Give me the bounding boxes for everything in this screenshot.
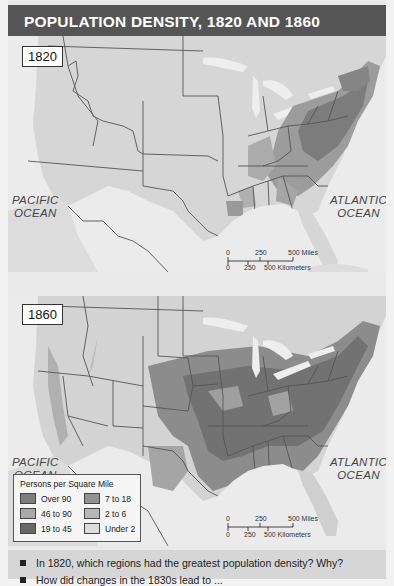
- legend-swatch-icon: [20, 508, 36, 519]
- map-1820: 1820 PACIFIC OCEAN ATLANTIC OCEAN 0 250 …: [8, 36, 386, 272]
- question-text: How did changes in the 1830s lead to ...: [36, 574, 223, 586]
- scale-km-500: 500 Kilometers: [264, 264, 311, 271]
- legend-item-over-90: Over 90: [20, 493, 71, 504]
- question-text: In 1820, which regions had the greatest …: [36, 557, 343, 569]
- atlantic-ocean-label-1820: ATLANTIC OCEAN: [330, 194, 386, 220]
- legend-label: Over 90: [41, 494, 71, 504]
- legend-item-7-to-18: 7 to 18: [84, 493, 131, 504]
- ocean-sub: OCEAN: [12, 207, 59, 220]
- scale-ruler-icon: [227, 523, 297, 531]
- legend-item-under-2: Under 2: [84, 523, 135, 534]
- scale-km-0: 0: [226, 264, 230, 271]
- ocean-name: PACIFIC: [12, 194, 59, 207]
- legend-item-46-to-90: 46 to 90: [20, 508, 72, 519]
- ocean-name: ATLANTIC: [330, 194, 386, 207]
- scale-mile-500: 500 Miles: [288, 515, 318, 522]
- legend-swatch-icon: [84, 523, 100, 534]
- scale-mile-250: 250: [255, 249, 267, 256]
- legend-swatch-icon: [20, 493, 36, 504]
- ocean-name: PACIFIC: [12, 456, 59, 469]
- scale-mile-500: 500 Miles: [288, 249, 318, 256]
- legend-title: Persons per Square Mile: [20, 479, 114, 489]
- question-panel: In 1820, which regions had the greatest …: [8, 550, 386, 579]
- legend-swatch-icon: [84, 493, 100, 504]
- year-label-1860: 1860: [22, 304, 63, 325]
- scale-km-250: 250: [244, 264, 256, 271]
- square-bullet-icon: [20, 560, 26, 566]
- year-label-1820: 1820: [22, 46, 63, 67]
- scale-km-0: 0: [226, 531, 230, 538]
- ocean-sub: OCEAN: [330, 207, 386, 220]
- us-map-1820-graphic: [8, 36, 386, 272]
- pacific-ocean-label-1820: PACIFIC OCEAN: [12, 194, 59, 220]
- figure-title: POPULATION DENSITY, 1820 AND 1860: [24, 13, 320, 31]
- legend-swatch-icon: [84, 508, 100, 519]
- scale-km-500: 500 Kilometers: [264, 531, 311, 538]
- legend-label: 2 to 6: [105, 509, 126, 519]
- scale-km-250: 250: [244, 531, 256, 538]
- scale-mile-250: 250: [255, 515, 267, 522]
- legend-label: 7 to 18: [105, 494, 131, 504]
- scale-mile-0: 0: [226, 515, 230, 522]
- legend-label: Under 2: [105, 524, 135, 534]
- ocean-sub: OCEAN: [330, 469, 386, 482]
- atlantic-ocean-label-1860: ATLANTIC OCEAN: [330, 456, 386, 482]
- legend-label: 19 to 45: [41, 524, 72, 534]
- scale-mile-0: 0: [226, 249, 230, 256]
- ocean-name: ATLANTIC: [330, 456, 386, 469]
- question-item: How did changes in the 1830s lead to ...: [20, 574, 223, 586]
- legend-label: 46 to 90: [41, 509, 72, 519]
- legend-swatch-icon: [20, 523, 36, 534]
- title-bar: POPULATION DENSITY, 1820 AND 1860: [8, 5, 386, 36]
- legend-item-19-to-45: 19 to 45: [20, 523, 72, 534]
- legend: Persons per Square Mile Over 90 46 to 90…: [13, 474, 141, 542]
- square-bullet-icon: [20, 577, 26, 583]
- question-item: In 1820, which regions had the greatest …: [20, 557, 343, 569]
- legend-item-2-to-6: 2 to 6: [84, 508, 126, 519]
